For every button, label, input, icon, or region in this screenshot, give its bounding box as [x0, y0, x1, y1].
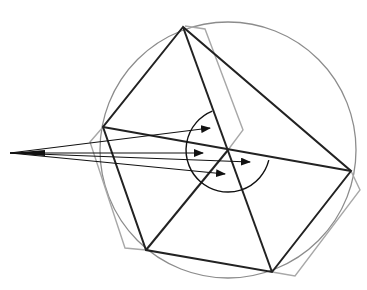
- diagram-canvas: [0, 0, 367, 290]
- diagonal-2: [103, 127, 351, 171]
- diagonal-3: [146, 150, 228, 250]
- arrow-3: [10, 153, 250, 162]
- gray-edge-right: [272, 171, 360, 276]
- geometry-figure: [0, 0, 367, 290]
- gray-edge-top: [185, 26, 243, 150]
- gray-edge-left: [90, 127, 146, 250]
